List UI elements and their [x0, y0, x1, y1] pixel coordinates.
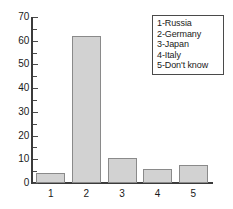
y-tick-0	[33, 183, 38, 184]
y-tick-label-70: 70	[3, 12, 29, 22]
y-tick-30	[33, 112, 38, 113]
y-tick-label-20: 20	[3, 131, 29, 141]
y-tick-50	[33, 64, 38, 65]
y-tick-minor	[33, 29, 37, 30]
y-tick-label-60: 60	[3, 36, 29, 46]
y-tick-label-wrap: 40	[0, 83, 29, 93]
y-tick-label-40: 40	[3, 83, 29, 93]
x-tick-label-1: 1	[41, 188, 61, 199]
y-tick-label-wrap: 20	[0, 131, 29, 141]
y-tick-label-wrap: 60	[0, 36, 29, 46]
y-tick-20	[33, 136, 38, 137]
legend: 1-Russia 2-Germany 3-Japan 4-Italy 5-Don…	[152, 15, 224, 75]
y-tick-label-wrap: 50	[0, 59, 29, 69]
y-tick-label-0: 0	[3, 178, 29, 188]
y-tick-label-30: 30	[3, 107, 29, 117]
x-tick-label-2: 2	[76, 188, 96, 199]
bar-1	[36, 173, 65, 183]
bar-5	[179, 165, 208, 183]
y-tick-10	[33, 159, 38, 160]
y-tick-60	[33, 41, 38, 42]
y-tick-label-wrap: 0	[0, 178, 29, 188]
legend-item-3: 3-Japan	[157, 39, 219, 50]
y-tick-minor	[33, 124, 37, 125]
y-tick-minor	[33, 171, 37, 172]
x-tick-label-3: 3	[112, 188, 132, 199]
legend-item-5: 5-Don't know	[157, 60, 219, 71]
y-tick-minor	[33, 147, 37, 148]
y-tick-70	[33, 17, 38, 18]
x-tick-label-5: 5	[183, 188, 203, 199]
bar-4	[143, 169, 172, 183]
y-tick-label-wrap: 70	[0, 12, 29, 22]
legend-item-2: 2-Germany	[157, 29, 219, 40]
y-tick-40	[33, 88, 38, 89]
y-tick-minor	[33, 100, 37, 101]
y-tick-label-50: 50	[3, 59, 29, 69]
y-tick-label-10: 10	[3, 154, 29, 164]
legend-item-4: 4-Italy	[157, 50, 219, 61]
bar-chart: 010203040506070 12345 1-Russia 2-Germany…	[0, 0, 233, 209]
y-tick-label-wrap: 30	[0, 107, 29, 117]
y-tick-minor	[33, 76, 37, 77]
x-tick-label-4: 4	[148, 188, 168, 199]
bar-3	[108, 158, 137, 183]
legend-item-1: 1-Russia	[157, 18, 219, 29]
y-tick-label-wrap: 10	[0, 154, 29, 164]
y-tick-minor	[33, 53, 37, 54]
bar-2	[72, 36, 101, 183]
